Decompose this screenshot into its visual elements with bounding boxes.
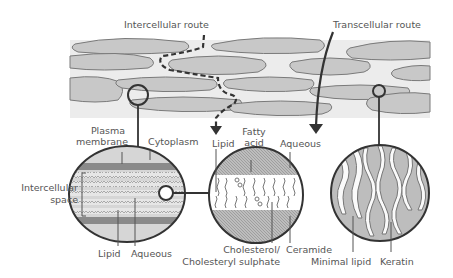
- cytoplasm-label: Cytoplasm: [148, 136, 199, 147]
- intercellular-route-label: Intercellular route: [124, 19, 209, 30]
- right-detail-ellipse: [328, 143, 433, 243]
- cholesterol-label-line2: Cholesteryl sulphate: [170, 256, 280, 267]
- aqueous-label-middle: Aqueous: [280, 138, 321, 149]
- lipid-label-middle: Lipid: [212, 138, 235, 149]
- cholesterol-label-line1: Cholesterol/: [200, 244, 280, 255]
- zoom-marker-lipid: [159, 186, 173, 200]
- left-detail-ellipse: [65, 140, 195, 250]
- keratin-label: Keratin: [380, 256, 414, 267]
- lipid-label-left: Lipid: [98, 248, 121, 259]
- transcellular-arrowhead-icon: [309, 124, 323, 134]
- plasma-membrane-label-line2: membrane: [74, 136, 130, 147]
- minimal-lipid-label: Minimal lipid: [311, 256, 371, 267]
- ceramide-label: Ceramide: [286, 244, 332, 255]
- fatty-acid-label-line1: Fatty: [238, 126, 270, 137]
- intercellular-arrowhead-icon: [210, 126, 222, 135]
- aqueous-label-left: Aqueous: [131, 248, 172, 259]
- intercellular-space-label-line1: Intercellular: [10, 182, 78, 193]
- middle-detail-ellipse: [205, 145, 310, 245]
- plasma-membrane-label-line1: Plasma: [88, 125, 128, 136]
- transcellular-route-label: Transcellular route: [333, 19, 421, 30]
- fatty-acid-label-line2: acid: [238, 137, 270, 148]
- stratum-corneum-band: [70, 38, 430, 118]
- intercellular-space-label-line2: space: [10, 194, 78, 205]
